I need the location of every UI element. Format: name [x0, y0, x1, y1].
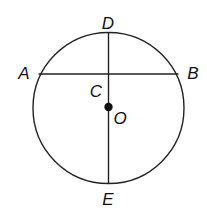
circle-diagram: D A B C O E: [0, 0, 207, 215]
center-point-o: [104, 103, 112, 111]
label-c: C: [90, 82, 103, 101]
label-a: A: [17, 64, 29, 83]
label-o: O: [113, 109, 126, 128]
label-e: E: [102, 190, 114, 209]
label-d: D: [102, 14, 114, 33]
label-b: B: [187, 64, 198, 83]
